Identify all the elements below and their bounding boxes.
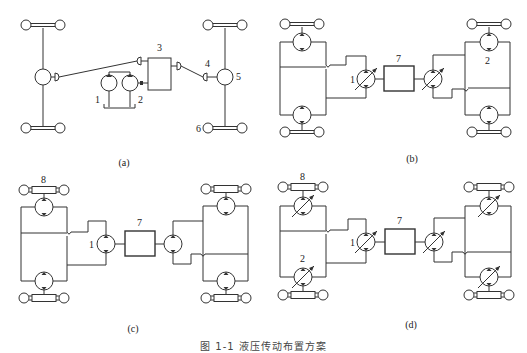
right-differential (217, 69, 233, 85)
motor-2 (122, 74, 148, 91)
panel-c: 8 1 7 (c) (19, 174, 251, 335)
gearbox (148, 58, 171, 90)
callout-7: 7 (137, 217, 142, 228)
callout-1: 1 (350, 237, 355, 248)
callout-7: 7 (396, 53, 401, 64)
engine-7 (125, 231, 155, 256)
panel-b: 1 7 2 (b) (280, 19, 511, 165)
panel-label-b: (b) (406, 153, 418, 165)
callout-8: 8 (300, 171, 305, 182)
pump-1 (101, 74, 117, 91)
callout-3: 3 (157, 42, 162, 53)
panel-d: 8 1 7 2 (d) (278, 171, 514, 331)
figure-caption: 图 1-1 液压传动布置方案 (0, 338, 527, 353)
callout-8: 8 (41, 174, 46, 185)
engine-7 (385, 229, 415, 254)
callout-5: 5 (236, 71, 241, 82)
callout-2: 2 (300, 253, 305, 264)
callout-1: 1 (95, 94, 100, 105)
left-differential (35, 69, 51, 85)
callout-2: 2 (138, 94, 143, 105)
panel-label-a: (a) (118, 157, 129, 169)
callout-6: 6 (196, 123, 201, 134)
callout-4: 4 (205, 58, 210, 69)
panel-label-d: (d) (405, 319, 417, 331)
callout-1: 1 (89, 239, 94, 250)
callout-1: 1 (350, 74, 355, 85)
callout-2: 2 (485, 55, 490, 66)
engine-7 (384, 66, 414, 91)
callout-7: 7 (397, 215, 402, 226)
panel-a: 1 2 3 4 5 6 (a) (21, 20, 247, 169)
panel-label-c: (c) (127, 323, 138, 335)
